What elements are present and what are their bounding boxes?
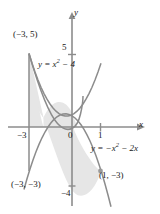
x-axis-label: x [139,120,143,129]
point-label-bottom-left: (−3, −3) [11,180,41,189]
equation-label-parabola-down: y = −x2 − 2x [91,144,138,153]
y-tick-label-5: 5 [62,43,67,52]
equation-label-parabola-up: y = x2 − 4 [38,60,75,69]
x-tick-label-1: 1 [98,131,103,140]
y-tick-label-neg4: −4 [61,189,71,198]
x-tick-label-neg3: −3 [17,131,27,140]
point-label-right: (1, −3) [99,171,124,180]
y-axis-label: y [74,8,78,17]
x-tick-label-0: 0 [68,131,73,140]
equation-down-tail: − 2x [119,143,138,153]
graph-figure: (−3, 5) (−3, −3) (1, −3) y = x2 − 4 y = … [0,0,160,214]
point-label-top-left: (−3, 5) [13,30,38,39]
equation-down-base: y = −x [91,143,116,153]
equation-up-base: y = x [38,59,57,69]
equation-up-tail: − 4 [60,59,75,69]
